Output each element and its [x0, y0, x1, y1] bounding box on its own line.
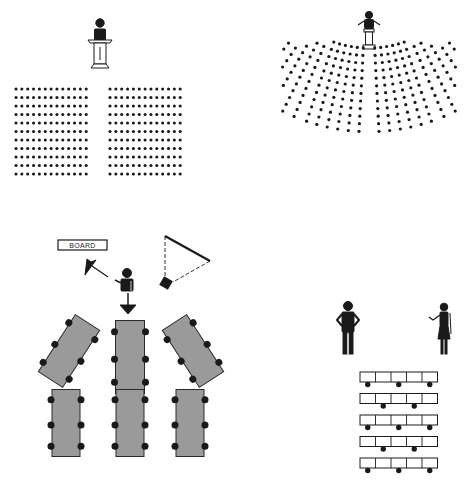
seat-dot	[50, 87, 53, 90]
seat-dot	[289, 71, 292, 74]
chair	[112, 422, 119, 429]
seat-dot	[32, 138, 35, 141]
seat-dot	[161, 87, 164, 90]
seat-dot	[73, 130, 76, 133]
seat-dot	[387, 114, 390, 117]
seat-dot	[50, 172, 53, 175]
seat-dot	[401, 57, 404, 60]
seat-dot	[26, 121, 29, 124]
seat-dot	[85, 164, 88, 167]
seat-dot	[327, 118, 330, 121]
seat-dot	[85, 96, 88, 99]
seat-dot	[396, 112, 399, 115]
seat-dot	[407, 79, 410, 82]
seat-dot	[55, 130, 58, 133]
seat-dot	[359, 92, 362, 95]
seat-dot	[50, 96, 53, 99]
seat-dot	[126, 147, 129, 150]
seat-dot	[409, 86, 412, 89]
seat-dot	[108, 87, 111, 90]
seat-dot	[320, 76, 323, 79]
seat-dot	[67, 155, 70, 158]
seat-dot	[327, 55, 330, 58]
seat-dot	[14, 130, 17, 133]
seat-dot	[328, 79, 331, 82]
seat-dot	[108, 138, 111, 141]
seat-dot	[326, 86, 329, 89]
seat-dot	[348, 114, 351, 117]
seat-dot	[114, 130, 117, 133]
seat-dot	[355, 53, 358, 56]
seat-dot	[132, 113, 135, 116]
chair	[202, 422, 209, 429]
seat-dot	[413, 69, 416, 72]
seat-dot	[114, 87, 117, 90]
seat-dot	[132, 164, 135, 167]
seat-dot	[295, 82, 298, 85]
chair	[142, 443, 149, 450]
seat-dot	[14, 113, 17, 116]
seminar-table-row	[360, 458, 438, 473]
seat-dot	[67, 96, 70, 99]
seat-dot	[340, 105, 343, 108]
seat-dot	[114, 96, 117, 99]
seat-dot	[161, 104, 164, 107]
seat-dot	[61, 138, 64, 141]
seat-dot	[126, 104, 129, 107]
seat-dot	[38, 138, 41, 141]
seat-dot	[138, 104, 141, 107]
seat-dot	[149, 96, 152, 99]
seat-dot	[14, 96, 17, 99]
seat-dot	[114, 164, 117, 167]
seat-dot	[305, 62, 308, 65]
seat-dot	[73, 164, 76, 167]
seat-dot	[132, 172, 135, 175]
chair	[202, 396, 209, 403]
seat-dot	[453, 48, 456, 51]
seat-dot	[61, 104, 64, 107]
seat-dot	[55, 87, 58, 90]
seat-dot	[173, 164, 176, 167]
seat-dot	[73, 104, 76, 107]
seat-dot	[85, 130, 88, 133]
seat-dot	[144, 164, 147, 167]
seat-dot	[149, 138, 152, 141]
chair	[78, 396, 85, 403]
projector-screen-icon	[165, 236, 210, 282]
seat-dot	[144, 96, 147, 99]
seat-dot	[126, 164, 129, 167]
seat-dot	[14, 104, 17, 107]
seat-dot	[32, 96, 35, 99]
seat-dot	[341, 97, 344, 100]
seat-dot	[373, 46, 376, 49]
seat-dot	[418, 115, 421, 118]
seat-dot	[322, 69, 325, 72]
seat-dot	[399, 81, 402, 84]
seat-dot	[144, 138, 147, 141]
seminar-table-row	[360, 372, 438, 387]
seat-dot	[108, 121, 111, 124]
seat-dot	[420, 123, 423, 126]
seat-dot	[334, 88, 337, 91]
chair	[427, 468, 432, 473]
seat-dot	[360, 77, 363, 80]
chair	[112, 443, 119, 450]
seat-dot	[297, 58, 300, 61]
chair	[202, 443, 209, 450]
theater-seat-grid	[14, 87, 181, 175]
seat-dot	[149, 164, 152, 167]
seat-dot	[179, 87, 182, 90]
seat-dot	[315, 91, 318, 94]
table	[52, 390, 80, 457]
seat-dot	[108, 104, 111, 107]
seat-dot	[32, 104, 35, 107]
seat-dot	[26, 113, 29, 116]
seat-dot	[404, 103, 407, 106]
seat-dot	[20, 172, 23, 175]
seat-dot	[44, 96, 47, 99]
seat-dot	[73, 87, 76, 90]
seat-dot	[120, 130, 123, 133]
seat-dot	[161, 155, 164, 158]
seat-dot	[73, 96, 76, 99]
seat-dot	[132, 147, 135, 150]
